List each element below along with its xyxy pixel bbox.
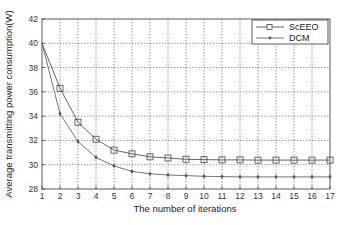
x-tick-label: 2 (58, 191, 63, 201)
legend: ScEEODCM (252, 20, 328, 44)
y-tick-label: 32 (29, 135, 39, 145)
y-axis: 2830323436384042 (29, 14, 45, 194)
x-tick-label: 9 (184, 191, 189, 201)
x-tick-label: 13 (253, 191, 263, 201)
series-layer (42, 43, 333, 179)
series-sceeo (42, 43, 333, 163)
x-tick-label: 14 (271, 191, 281, 201)
grid (42, 19, 330, 189)
y-tick-label: 30 (29, 160, 39, 170)
x-tick-label: 5 (112, 191, 117, 201)
y-axis-label: Average transmitting power consumption(W… (3, 10, 14, 197)
x-tick-label: 6 (130, 191, 135, 201)
legend-marker-sceeo (267, 25, 272, 30)
legend-label-dcm: DCM (289, 33, 310, 43)
y-tick-label: 38 (29, 63, 39, 73)
x-tick-label: 11 (218, 191, 227, 201)
x-tick-label: 1 (40, 191, 45, 201)
x-tick-label: 17 (325, 191, 335, 201)
y-tick-label: 34 (29, 111, 39, 121)
x-axis-label: The number of iterations (134, 203, 237, 214)
x-tick-label: 10 (199, 191, 209, 201)
x-tick-label: 12 (235, 191, 245, 201)
y-tick-label: 40 (29, 38, 39, 48)
legend-label-sceeo: ScEEO (289, 22, 319, 32)
x-tick-label: 4 (94, 191, 99, 201)
y-tick-label: 36 (29, 87, 39, 97)
x-tick-label: 8 (166, 191, 171, 201)
x-tick-label: 7 (148, 191, 153, 201)
line-chart: 2830323436384042 12345678910111213141516… (0, 0, 348, 225)
x-tick-label: 3 (76, 191, 81, 201)
y-tick-label: 42 (29, 14, 39, 24)
x-tick-label: 16 (307, 191, 317, 201)
y-tick-label: 28 (29, 184, 39, 194)
legend-marker-dcm (269, 37, 272, 40)
x-tick-label: 15 (289, 191, 299, 201)
x-axis: 1234567891011121314151617 (40, 186, 335, 201)
